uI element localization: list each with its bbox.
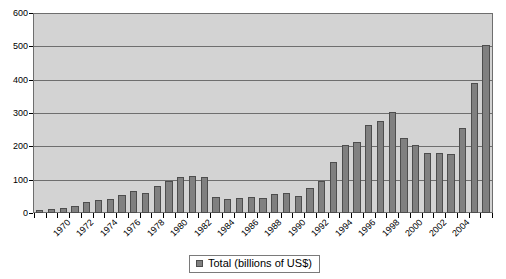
bar: [236, 198, 243, 213]
y-axis-tick-label: 600: [0, 9, 28, 18]
bar: [142, 193, 149, 213]
x-axis-tick-label: 1992: [310, 218, 331, 239]
bar: [83, 202, 90, 213]
bar: [436, 153, 443, 213]
bar: [177, 177, 184, 213]
bar: [412, 145, 419, 213]
y-axis-tick: [29, 13, 33, 14]
bar: [459, 128, 466, 213]
x-axis-tick-label: 2004: [451, 218, 472, 239]
bar: [189, 176, 196, 213]
y-axis-tick-label: 400: [0, 76, 28, 85]
x-axis-tick-label: 2000: [404, 218, 425, 239]
x-axis-tick-label: 1978: [146, 218, 167, 239]
bar: [424, 153, 431, 213]
bar: [248, 197, 255, 214]
legend-swatch-icon: [196, 260, 203, 267]
bar: [271, 194, 278, 213]
chart-legend: Total (billions of US$): [189, 255, 320, 273]
bar-series: [34, 14, 492, 213]
bar: [389, 112, 396, 213]
bar: [342, 145, 349, 213]
bar: [400, 138, 407, 213]
bar: [377, 121, 384, 213]
x-axis-tick-label: 1984: [216, 218, 237, 239]
x-axis-tick-label: 1996: [357, 218, 378, 239]
y-axis-tick: [29, 180, 33, 181]
x-axis-tick-label: 1994: [334, 218, 355, 239]
bar: [295, 196, 302, 213]
y-axis-tick: [29, 80, 33, 81]
bar: [118, 195, 125, 213]
bar: [165, 181, 172, 213]
bar: [365, 125, 372, 213]
bar: [471, 83, 478, 213]
bar: [201, 177, 208, 213]
y-axis-tick: [29, 113, 33, 114]
bar: [353, 142, 360, 213]
x-axis-tick-label: 2002: [428, 218, 449, 239]
x-axis-tick-label: 1970: [52, 218, 73, 239]
y-axis-tick: [29, 146, 33, 147]
bar: [306, 188, 313, 213]
bar: [318, 181, 325, 213]
bar: [107, 199, 114, 213]
x-axis-tick-label: 1988: [263, 218, 284, 239]
bar: [259, 198, 266, 213]
bar: [482, 45, 489, 213]
bar: [130, 191, 137, 213]
y-axis-tick-label: 100: [0, 176, 28, 185]
bar-chart: 0100200300400500600 19701972197419761978…: [0, 0, 506, 279]
bar: [154, 186, 161, 213]
y-axis-tick-label: 300: [0, 109, 28, 118]
x-axis-tick-label: 1980: [169, 218, 190, 239]
x-axis-tick-label: 1986: [240, 218, 261, 239]
bar: [71, 206, 78, 213]
bar: [224, 199, 231, 213]
y-axis-tick: [29, 46, 33, 47]
bar: [283, 193, 290, 213]
bar: [330, 162, 337, 213]
y-axis-tick-label: 500: [0, 42, 28, 51]
x-axis-tick-label: 1972: [75, 218, 96, 239]
y-axis-tick-label: 200: [0, 142, 28, 151]
bar: [212, 197, 219, 214]
x-axis-tick-label: 1982: [193, 218, 214, 239]
x-axis-tick-label: 1990: [287, 218, 308, 239]
x-axis-labels: 1970197219741976197819801982198419861988…: [0, 216, 506, 252]
x-axis-tick-label: 1976: [122, 218, 143, 239]
x-axis-tick-label: 1974: [99, 218, 120, 239]
bar: [447, 154, 454, 213]
x-axis-tick-label: 1998: [381, 218, 402, 239]
bar: [95, 200, 102, 213]
legend-label: Total (billions of US$): [208, 258, 312, 269]
